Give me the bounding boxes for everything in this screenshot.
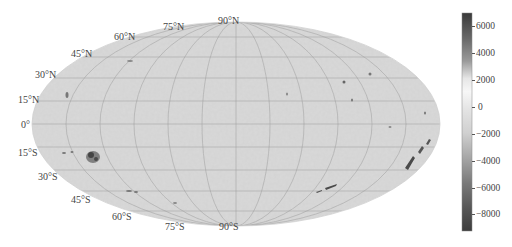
lat-label-90n: 90°N xyxy=(218,16,239,26)
lat-label-15s: 15°S xyxy=(18,148,38,158)
colorbar-label: 2000 xyxy=(476,75,495,85)
lat-label-75s: 75°S xyxy=(165,222,185,232)
colorbar-label: −8000 xyxy=(476,209,500,219)
lat-label-15n: 15°N xyxy=(18,95,39,105)
colorbar xyxy=(462,13,472,231)
lat-label-30n: 30°N xyxy=(35,70,56,80)
lat-label-60n: 60°N xyxy=(114,32,135,42)
colorbar-label: 4000 xyxy=(476,48,495,58)
lat-label-45n: 45°N xyxy=(71,49,92,59)
colorbar-tick xyxy=(472,161,475,162)
colorbar-tick xyxy=(472,134,475,135)
elevation-map-figure: 90°N 75°N 60°N 45°N 30°N 15°N 0° 15°S 30… xyxy=(0,0,512,247)
colorbar-label: −2000 xyxy=(476,129,500,139)
lat-label-45s: 45°S xyxy=(71,195,91,205)
colorbar-label: 6000 xyxy=(476,21,495,31)
map-svg xyxy=(0,0,512,247)
colorbar-tick xyxy=(472,214,475,215)
colorbar-label: −4000 xyxy=(476,156,500,166)
colorbar-label: −6000 xyxy=(476,183,500,193)
colorbar-tick xyxy=(472,53,475,54)
lat-label-30s: 30°S xyxy=(38,172,58,182)
colorbar-tick xyxy=(472,26,475,27)
colorbar-tick xyxy=(472,80,475,81)
lat-label-equator: 0° xyxy=(21,120,30,130)
lat-label-75n: 75°N xyxy=(163,22,184,32)
colorbar-label: 0 xyxy=(478,102,483,112)
colorbar-tick xyxy=(472,107,475,108)
lat-label-90s: 90°S xyxy=(219,222,239,232)
colorbar-tick xyxy=(472,188,475,189)
lat-label-60s: 60°S xyxy=(112,212,132,222)
